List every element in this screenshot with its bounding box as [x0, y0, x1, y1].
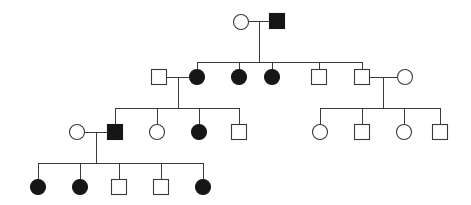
- individual-II-4-female-affected[interactable]: [265, 70, 280, 85]
- individual-IV-4-male-unaffected[interactable]: [154, 180, 169, 195]
- individual-II-6-male-unaffected[interactable]: [355, 70, 370, 85]
- sibship-gen3-left-group: [115, 108, 239, 125]
- generation-4-group: [31, 180, 211, 195]
- individual-IV-5-female-affected[interactable]: [196, 180, 211, 195]
- pedigree-chart: [0, 0, 471, 205]
- individual-II-7-female-unaffected[interactable]: [398, 70, 413, 85]
- generation-1-group: [234, 14, 285, 63]
- individual-IV-1-female-affected[interactable]: [31, 180, 46, 195]
- sibship-gen2-group: [197, 62, 362, 70]
- generation-3-group: [70, 125, 448, 164]
- individual-II-5-male-unaffected[interactable]: [312, 70, 327, 85]
- individual-IV-3-male-unaffected[interactable]: [112, 180, 127, 195]
- individual-III-8-female-unaffected[interactable]: [397, 125, 412, 140]
- individual-III-9-male-unaffected[interactable]: [433, 125, 448, 140]
- individual-III-4-female-affected[interactable]: [192, 125, 207, 140]
- individual-III-2-male-affected[interactable]: [108, 125, 123, 140]
- generation-2-group: [152, 70, 413, 109]
- individual-I-1-female-unaffected[interactable]: [234, 15, 249, 30]
- individual-III-3-female-unaffected[interactable]: [150, 125, 165, 140]
- individual-II-2-female-affected[interactable]: [190, 70, 205, 85]
- sibship-gen4-group: [38, 163, 203, 180]
- individual-III-1-female-unaffected[interactable]: [70, 125, 85, 140]
- individual-II-1-male-unaffected[interactable]: [152, 70, 167, 85]
- pedigree-canvas: [0, 0, 471, 205]
- individual-IV-2-female-affected[interactable]: [73, 180, 88, 195]
- individual-II-3-female-affected[interactable]: [232, 70, 247, 85]
- individual-III-5-male-unaffected[interactable]: [232, 125, 247, 140]
- sibship-gen3-right-group: [320, 108, 440, 125]
- individual-III-7-male-unaffected[interactable]: [355, 125, 370, 140]
- individual-I-2-male-affected[interactable]: [270, 14, 285, 29]
- individual-III-6-female-unaffected[interactable]: [313, 125, 328, 140]
